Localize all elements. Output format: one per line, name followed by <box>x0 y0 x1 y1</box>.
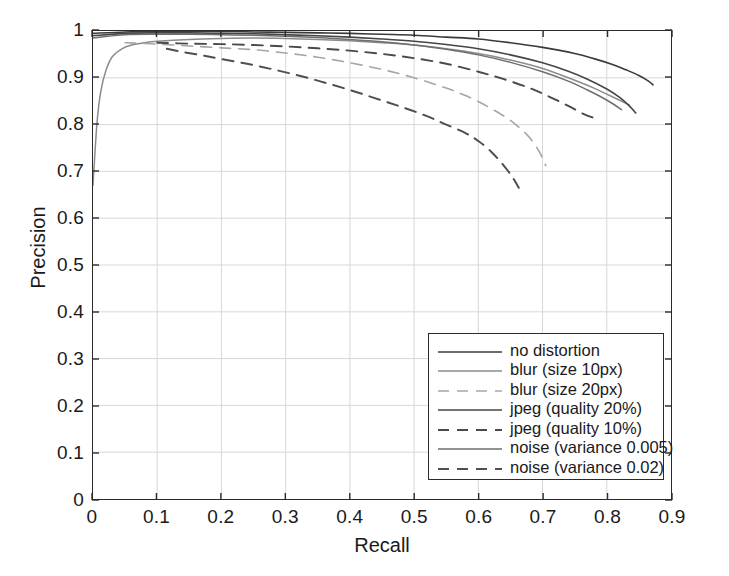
x-tick-label: 0.2 <box>207 506 234 528</box>
x-tick-label: 0.7 <box>530 506 557 528</box>
x-tick-label: 0.3 <box>272 506 299 528</box>
legend-item: blur (size 10px) <box>429 360 663 380</box>
y-tick-label: 0 <box>6 489 84 511</box>
legend-label: blur (size 10px) <box>510 361 623 378</box>
legend-line-sample <box>437 402 503 414</box>
y-tick-label: 0.2 <box>6 395 84 417</box>
legend-line-sample <box>437 441 503 453</box>
x-tick-label: 0.5 <box>401 506 428 528</box>
y-tick-label: 0.9 <box>6 66 84 88</box>
legend-item: blur (size 20px) <box>429 379 663 399</box>
x-tick-label: 0 <box>87 506 98 528</box>
y-tick-label: 0.8 <box>6 113 84 135</box>
y-tick-label: 1 <box>6 19 84 41</box>
legend-label: jpeg (quality 10%) <box>510 420 642 437</box>
legend-box: no distortionblur (size 10px)blur (size … <box>428 333 664 480</box>
y-tick-label: 0.3 <box>6 348 84 370</box>
legend-item: jpeg (quality 20%) <box>429 399 663 419</box>
legend-item: noise (variance 0.005) <box>429 438 663 458</box>
x-axis-tick-labels: 00.10.20.30.40.50.60.70.80.9 <box>92 506 672 532</box>
legend-line-sample <box>437 363 503 375</box>
legend-line-sample <box>437 383 503 395</box>
x-tick-label: 0.6 <box>465 506 492 528</box>
x-tick-label: 0.1 <box>143 506 170 528</box>
legend-line-sample <box>437 461 503 473</box>
legend-label: blur (size 20px) <box>510 381 623 398</box>
legend-item: no distortion <box>429 340 663 360</box>
y-axis-title: Precision <box>27 148 50 348</box>
x-tick-label: 0.9 <box>658 506 685 528</box>
x-axis-title: Recall <box>92 534 672 557</box>
legend-item: jpeg (quality 10%) <box>429 418 663 438</box>
legend-label: jpeg (quality 20%) <box>510 400 642 417</box>
legend-item: noise (variance 0.02) <box>429 457 663 477</box>
legend-label: noise (variance 0.005) <box>510 439 673 456</box>
y-tick-label: 0.1 <box>6 442 84 464</box>
legend-label: noise (variance 0.02) <box>510 459 664 476</box>
legend-label: no distortion <box>510 342 600 359</box>
chart-figure: 00.10.20.30.40.50.60.70.80.91 00.10.20.3… <box>0 0 729 576</box>
x-tick-label: 0.8 <box>594 506 621 528</box>
x-tick-label: 0.4 <box>336 506 363 528</box>
legend-line-sample <box>437 344 503 356</box>
legend-line-sample <box>437 422 503 434</box>
